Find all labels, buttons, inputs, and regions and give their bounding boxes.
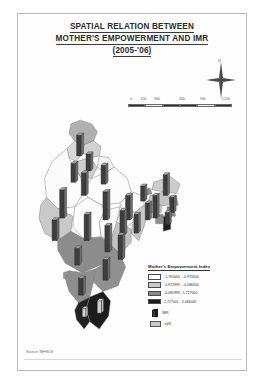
legend-item: 1.727001 - 3.446000: [148, 298, 244, 305]
legend-label: npR: [165, 322, 171, 326]
legend-swatch: [148, 282, 161, 288]
imr-bar: [60, 188, 67, 218]
imr-bar: [145, 201, 151, 220]
imr-bar: [170, 195, 176, 212]
legend-item: -0.972999 - -0.086000: [148, 282, 244, 289]
imr-bar: [82, 307, 88, 317]
imr-bar: [81, 171, 88, 196]
imr-bar: [101, 163, 108, 184]
imr-bar-symbol-icon: [152, 309, 158, 318]
title-line-2: MOTHER'S EMPOWERMENT AND IMR: [18, 33, 246, 45]
legend-swatch: [148, 274, 161, 280]
imr-bar: [141, 184, 147, 201]
legend-label: IMR: [162, 311, 168, 315]
imr-bar: [75, 246, 82, 265]
imr-bar: [97, 299, 103, 313]
legend-label: -0.972999 - -0.086000: [164, 283, 199, 287]
source-divider: [24, 359, 242, 360]
scale-block: [180, 104, 197, 107]
legend-swatch: [148, 291, 161, 297]
title-line-1: SPATIAL RELATION BETWEEN: [18, 21, 246, 33]
imr-bar: [71, 161, 78, 182]
imr-bar: [103, 257, 110, 280]
legend-label: 1.727001 - 3.446000: [164, 300, 196, 304]
legend-item: -0.085999 - 1.727000: [148, 290, 244, 297]
scale-tick-3: 600: [179, 97, 185, 101]
map-legend: Mother's Empowerment Index -1.765600 - -…: [148, 254, 244, 330]
legend-title: Mother's Empowerment Index: [148, 264, 210, 271]
imr-bar: [103, 189, 110, 219]
scale-tick-4: 900: [200, 97, 206, 101]
scale-tick-5: 1,200: [222, 97, 231, 101]
source-note: Source: NFHS-III: [26, 350, 53, 354]
imr-bar: [105, 223, 112, 252]
scale-tick-2: 300: [154, 97, 160, 101]
map-figure: SPATIAL RELATION BETWEEN MOTHER'S EMPOWE…: [17, 13, 247, 371]
map-title: SPATIAL RELATION BETWEEN MOTHER'S EMPOWE…: [18, 21, 246, 57]
imr-bar: [165, 210, 171, 224]
legend-extra-items: IMR npR: [148, 308, 244, 329]
legend-label: -0.085999 - 1.727000: [164, 291, 197, 295]
scale-block: [197, 104, 214, 107]
legend-item-imr: IMR: [148, 308, 244, 318]
title-line-3: (2005-'06): [18, 45, 246, 57]
imr-bar: [52, 218, 59, 241]
imr-bar: [78, 276, 85, 295]
legend-item: -1.765600 - -0.973000: [148, 274, 244, 281]
imr-bar: [120, 208, 127, 235]
scale-block: [215, 104, 232, 107]
scale-tick-0: 0: [130, 97, 132, 101]
legend-label: -1.765600 - -0.973000: [164, 275, 199, 279]
imr-bar: [84, 212, 91, 241]
imr-bar: [86, 152, 93, 171]
imr-bar: [118, 233, 125, 260]
legend-item-npr: npR: [148, 319, 244, 329]
compass-north-arrow-icon: [204, 60, 238, 100]
scale-tick-1: 150: [141, 97, 147, 101]
imr-bar: [134, 212, 140, 233]
legend-swatch: [148, 299, 161, 305]
imr-bar: [153, 193, 159, 218]
imr-bar: [77, 133, 84, 156]
npr-square-symbol-icon: [150, 321, 161, 327]
imr-bar: [163, 173, 169, 196]
